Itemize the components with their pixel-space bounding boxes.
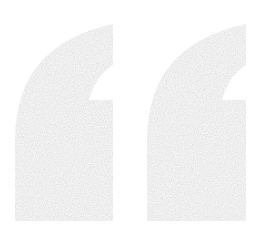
quotation-mark-icon [0,0,260,231]
right-quote-mark [147,24,246,221]
left-quote-mark [15,24,113,221]
